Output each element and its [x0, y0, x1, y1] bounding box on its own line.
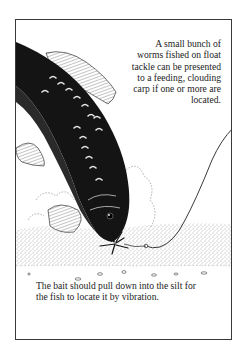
caption-top-line: to a feeding, clouding	[101, 72, 221, 83]
caption-top-line: located.	[101, 94, 221, 105]
caption-top-line: A small bunch of	[101, 38, 221, 49]
illustration-frame: A small bunch of worms fished on float t…	[15, 19, 232, 340]
caption-top: A small bunch of worms fished on float t…	[101, 38, 221, 106]
caption-top-line: worms fished on float	[101, 49, 221, 60]
carp-eye	[107, 213, 113, 219]
caption-top-line: tackle can be presented	[101, 61, 221, 72]
caption-bottom-line: the fish to locate it by vibration.	[36, 291, 226, 302]
caption-top-line: carp if one or more are	[101, 83, 221, 94]
caption-bottom-line: The bait should pull down into the silt …	[36, 280, 226, 291]
pebbles	[28, 271, 207, 281]
silt-bed	[16, 223, 232, 266]
caption-bottom: The bait should pull down into the silt …	[36, 280, 226, 303]
